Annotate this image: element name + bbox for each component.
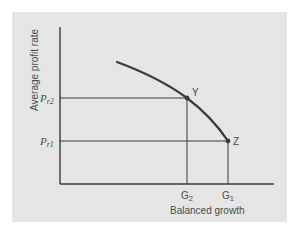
point-y-label: Y	[192, 87, 199, 98]
point-y	[185, 96, 190, 101]
point-z	[226, 139, 231, 144]
tradeoff-curve	[117, 62, 228, 141]
x-axis-label: Balanced growth	[170, 205, 245, 216]
x-tick-g2: G2	[181, 190, 193, 203]
x-tick-g1: G1	[222, 190, 234, 203]
point-z-label: Z	[233, 136, 239, 147]
y-tick-pr1: Pr1	[39, 135, 54, 149]
y-tick-pr2: Pr2	[39, 92, 54, 106]
profit-growth-diagram: Y Z Pr2 Pr1 G2 G1 Balanced growth Averag…	[0, 0, 292, 237]
y-axis-label: Average profit rate	[29, 28, 40, 111]
